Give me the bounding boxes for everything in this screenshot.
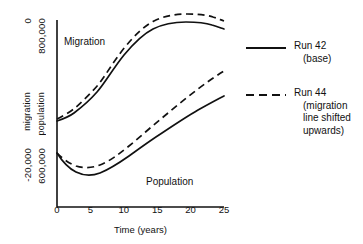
curve-migration-run44	[57, 14, 224, 119]
y-axis-title-population: population	[37, 92, 46, 136]
legend-sample-dashed-icon	[246, 90, 286, 100]
x-axis-tick-labels: 0510152025	[0, 204, 363, 218]
y-axis-bottom-label-migration: -20,000	[23, 148, 33, 182]
x-tick-label-5: 5	[88, 204, 93, 215]
legend-label-run44-line1: Run 44	[294, 87, 351, 100]
y-axis-bottom-label-population: 600,000	[37, 148, 47, 184]
legend-entry-run44: Run 44 (migration line shifted upwards)	[246, 87, 363, 137]
annotation-migration: Migration	[64, 36, 105, 47]
legend-label-run44-line3: line shifted	[294, 112, 351, 125]
legend-label-run42: Run 42 (base)	[294, 40, 331, 65]
x-tick-label-20: 20	[185, 204, 196, 215]
legend-sample-solid-icon	[246, 43, 286, 53]
legend-entry-run42: Run 42 (base)	[246, 40, 363, 65]
y-axis-top-label-population: 800,000	[37, 18, 47, 54]
legend-label-run42-line1: Run 42	[294, 40, 331, 53]
x-tick-label-0: 0	[54, 204, 59, 215]
legend-label-run44: Run 44 (migration line shifted upwards)	[294, 87, 351, 137]
curve-population-run44	[57, 71, 224, 168]
legend-label-run42-line2: (base)	[294, 53, 331, 66]
x-tick-label-25: 25	[219, 204, 230, 215]
annotation-population: Population	[146, 176, 193, 187]
y-axis-title-migration: migration	[23, 92, 32, 131]
legend: Run 42 (base) Run 44 (migration line shi…	[246, 40, 363, 151]
chart-figure: 0 800,000 -20,000 600,000 migration popu…	[0, 0, 363, 244]
y-axis-top-label-migration: 0	[23, 18, 33, 23]
legend-label-run44-line2: (migration	[294, 100, 351, 113]
x-tick-label-10: 10	[119, 204, 130, 215]
x-axis-title: Time (years)	[57, 224, 224, 235]
x-tick-label-15: 15	[152, 204, 163, 215]
legend-label-run44-line4: upwards)	[294, 125, 351, 138]
